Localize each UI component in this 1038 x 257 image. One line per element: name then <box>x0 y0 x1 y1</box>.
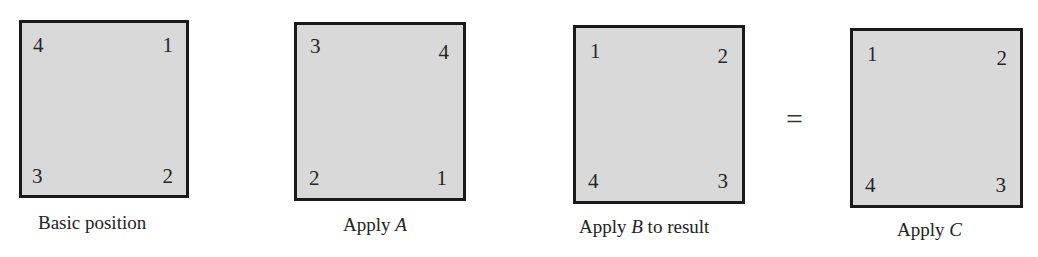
corner-bottom-left: 2 <box>309 168 320 189</box>
square-apply-c: 1 2 4 3 <box>850 28 1023 208</box>
caption-basic-position: Basic position <box>38 212 146 234</box>
caption-text: Apply <box>897 219 949 240</box>
corner-bottom-right: 3 <box>718 171 729 192</box>
caption-text: Apply <box>579 216 631 237</box>
corner-bottom-right: 1 <box>437 168 448 189</box>
equals-sign: = <box>786 104 803 134</box>
caption-apply-c: Apply C <box>897 219 962 241</box>
corner-top-left: 3 <box>310 36 321 57</box>
corner-bottom-left: 4 <box>588 171 599 192</box>
square-basic-position: 4 1 3 2 <box>19 20 189 198</box>
caption-variable: C <box>949 219 962 240</box>
corner-bottom-left: 4 <box>865 175 876 196</box>
caption-variable: B <box>631 216 643 237</box>
caption-text: Basic position <box>38 212 146 233</box>
caption-text: Apply <box>343 214 395 235</box>
corner-bottom-right: 2 <box>163 166 174 187</box>
corner-top-left: 1 <box>867 44 878 65</box>
caption-apply-a: Apply A <box>343 214 407 236</box>
square-apply-a: 3 4 2 1 <box>294 22 466 201</box>
caption-apply-b: Apply B to result <box>579 216 709 238</box>
corner-bottom-right: 3 <box>996 175 1007 196</box>
corner-top-left: 4 <box>33 35 44 56</box>
caption-text-suffix: to result <box>643 216 710 237</box>
corner-top-right: 2 <box>718 46 729 67</box>
square-apply-b: 1 2 4 3 <box>573 25 745 204</box>
caption-variable: A <box>395 214 407 235</box>
corner-top-right: 1 <box>163 35 174 56</box>
corner-bottom-left: 3 <box>32 166 43 187</box>
corner-top-left: 1 <box>590 41 601 62</box>
corner-top-right: 4 <box>439 42 450 63</box>
corner-top-right: 2 <box>997 48 1008 69</box>
